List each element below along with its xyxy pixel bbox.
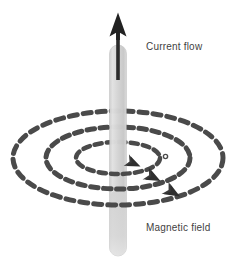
current-arrow-head xyxy=(110,13,127,41)
conductor-front-band xyxy=(110,108,127,160)
conductor-lower-shade xyxy=(110,190,127,256)
magnetic-field-label: Magnetic field xyxy=(146,222,211,234)
figure-root: Current flow Magnetic field xyxy=(0,0,243,267)
current-flow-label: Current flow xyxy=(146,41,202,53)
field-line-node-marker xyxy=(163,154,167,158)
conductor-front-segment xyxy=(110,108,127,160)
